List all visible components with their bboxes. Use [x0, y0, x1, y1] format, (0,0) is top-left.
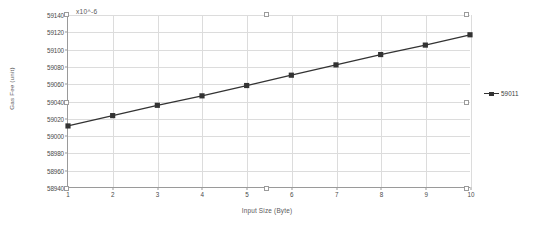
x-tick-label: 7 — [335, 191, 339, 198]
series-data-point[interactable] — [155, 103, 160, 108]
y-tick-label: 59120 — [47, 29, 64, 36]
series-data-point[interactable] — [244, 83, 249, 88]
x-tick-label: 9 — [424, 191, 428, 198]
series-data-point[interactable] — [378, 52, 383, 57]
y-tick-label: 59020 — [47, 115, 64, 122]
series-data-point[interactable] — [333, 62, 338, 67]
x-tick-mark — [112, 187, 113, 190]
y-tick-label: 58980 — [47, 150, 64, 157]
y-tick-label: 59060 — [47, 81, 64, 88]
y-tick-label: 59000 — [47, 133, 64, 140]
selection-handle[interactable] — [464, 12, 469, 17]
series-line — [68, 35, 470, 126]
x-tick-label: 3 — [156, 191, 160, 198]
x-tick-mark — [336, 187, 337, 190]
selection-handle[interactable] — [464, 100, 469, 105]
selection-handle[interactable] — [264, 12, 269, 17]
axis-exponent-annotation: x10^-6 — [76, 8, 97, 15]
y-tick-label: 58940 — [47, 185, 64, 192]
x-tick-mark — [426, 187, 427, 190]
x-tick-label: 6 — [290, 191, 294, 198]
selection-handle[interactable] — [64, 186, 69, 191]
x-tick-label: 1 — [66, 191, 70, 198]
selection-handle[interactable] — [464, 186, 469, 191]
x-tick-label: 2 — [111, 191, 115, 198]
legend-series-marker-icon — [484, 90, 499, 97]
x-tick-label: 10 — [467, 191, 474, 198]
x-tick-label: 4 — [201, 191, 205, 198]
series-data-point[interactable] — [289, 73, 294, 78]
selection-handle[interactable] — [64, 100, 69, 105]
series-data-point[interactable] — [199, 93, 204, 98]
x-tick-mark — [381, 187, 382, 190]
series-data-point[interactable] — [110, 113, 115, 118]
x-tick-mark — [291, 187, 292, 190]
x-tick-label: 8 — [380, 191, 384, 198]
y-tick-label: 58960 — [47, 167, 64, 174]
gas-fee-line-chart[interactable]: Gas Fee (unit) x10^-6 591405912059100590… — [0, 0, 545, 230]
x-tick-mark — [157, 187, 158, 190]
y-tick-label: 59100 — [47, 46, 64, 53]
x-tick-mark — [247, 187, 248, 190]
x-axis-title: Input Size (Byte) — [60, 207, 474, 214]
legend-series-label: 59011 — [501, 90, 519, 97]
y-tick-label: 59140 — [47, 12, 64, 19]
series-data-point[interactable] — [467, 32, 472, 37]
x-tick-mark — [202, 187, 203, 190]
series-data-point[interactable] — [423, 43, 428, 48]
selection-handle[interactable] — [64, 12, 69, 17]
y-axis-title: Gas Fee (unit) — [8, 44, 15, 134]
series-data-point[interactable] — [65, 123, 70, 128]
plot-area: 5914059120591005908059060590405902059000… — [67, 15, 470, 188]
y-tick-label: 59040 — [47, 98, 64, 105]
gridline-vertical — [471, 15, 472, 187]
selection-handle[interactable] — [264, 186, 269, 191]
data-series-layer — [68, 15, 470, 187]
chart-legend[interactable]: 59011 — [484, 90, 519, 97]
x-tick-mark — [471, 187, 472, 190]
y-tick-label: 59080 — [47, 63, 64, 70]
x-tick-label: 5 — [245, 191, 249, 198]
